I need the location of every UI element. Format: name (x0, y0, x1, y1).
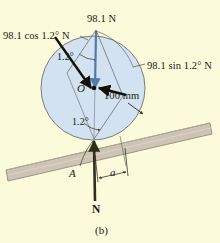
center-point-marker (92, 86, 97, 91)
offset-dimension-label: a (110, 167, 116, 178)
contact-point-label: A (69, 168, 76, 179)
weight-force-label: 98.1 N (87, 14, 116, 25)
radius-dimension-label: 100 mm (104, 91, 139, 102)
normal-force-arrow (94, 141, 95, 201)
sin-component-label: 98.1 sin 1.2° N (147, 61, 212, 72)
weight-force-arrow (95, 31, 96, 88)
figure-caption: (b) (95, 225, 108, 236)
figure-container: 98.1 N 98.1 cos 1.2° N 98.1 sin 1.2° N 1… (0, 0, 220, 243)
normal-force-label: N (92, 204, 100, 216)
cos-component-label: 98.1 cos 1.2° N (3, 31, 70, 42)
angle-label-lower: 1.2° (72, 117, 89, 127)
angle-label-upper: 1.2° (57, 52, 74, 62)
center-point-label: O (77, 83, 85, 94)
